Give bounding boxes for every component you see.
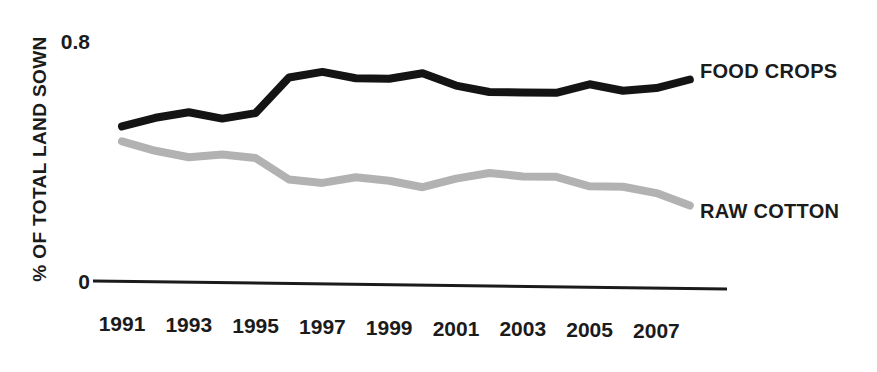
x-axis-tick-1999: 1999: [356, 316, 422, 340]
x-axis-tick-2005: 2005: [557, 318, 623, 342]
x-axis-line: [93, 281, 727, 289]
series-label-raw-cotton: RAW COTTON: [700, 200, 839, 223]
x-axis-tick-2003: 2003: [490, 317, 556, 341]
series-line-raw-cotton: [122, 141, 690, 205]
series-line-food-crops: [122, 72, 690, 127]
x-axis-tick-1993: 1993: [156, 313, 222, 337]
x-axis-tick-1997: 1997: [289, 315, 355, 339]
chart-container: % OF TOTAL LAND SOWN 0.8 0 1991199319951…: [0, 0, 877, 372]
series-label-food-crops: FOOD CROPS: [700, 60, 837, 83]
x-axis-tick-1995: 1995: [223, 314, 289, 338]
x-axis-tick-2007: 2007: [623, 319, 689, 343]
x-axis-tick-1991: 1991: [89, 312, 155, 336]
x-axis-tick-2001: 2001: [423, 317, 489, 341]
